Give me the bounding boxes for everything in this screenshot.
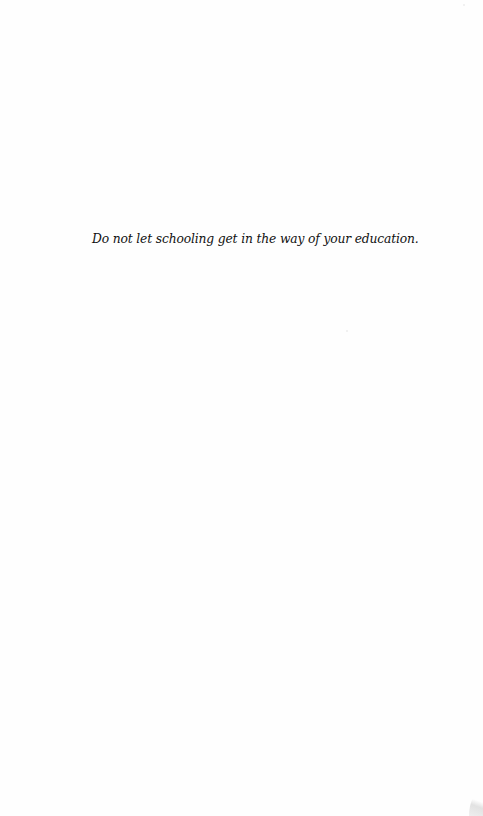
book-page: Do not let schooling get in the way of y… <box>0 0 483 816</box>
paper-speck <box>346 330 348 332</box>
epigraph-quote: Do not let schooling get in the way of y… <box>92 230 392 248</box>
paper-speck <box>463 4 465 6</box>
page-corner-curl <box>469 790 483 816</box>
